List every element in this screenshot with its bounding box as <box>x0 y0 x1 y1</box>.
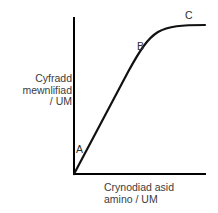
y-axis-label-line-1: Cyfradd <box>8 73 72 85</box>
x-axis-label-line-2: amino / UM <box>104 194 212 206</box>
y-axis-label-line-3: / UM <box>8 96 72 108</box>
x-axis-label-line-1: Crynodiad asid <box>104 182 212 194</box>
graph-figure: Cyfradd mewnlifiad / UM Crynodiad asid a… <box>0 0 218 213</box>
point-label-a: A <box>76 144 83 155</box>
y-axis-label: Cyfradd mewnlifiad / UM <box>8 73 72 108</box>
point-label-b: B <box>137 41 144 52</box>
x-axis-label: Crynodiad asid amino / UM <box>104 182 212 205</box>
point-label-c: C <box>185 10 193 21</box>
